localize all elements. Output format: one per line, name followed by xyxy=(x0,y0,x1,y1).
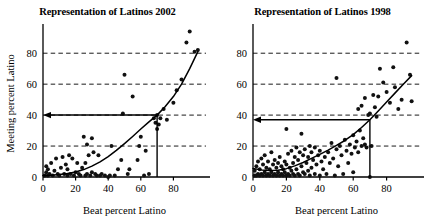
panel-latinos-2002: Representation of Latinos 2002 020406080… xyxy=(0,0,215,219)
svg-text:Beat percent Latino: Beat percent Latino xyxy=(295,205,378,216)
scatter-plot-2002: 020406080020406080 Beat percent LatinoMe… xyxy=(0,0,215,219)
scatter-plot-1998: 020406080020406080 Beat percent Latino xyxy=(215,0,430,219)
svg-text:80: 80 xyxy=(237,48,248,59)
svg-text:20: 20 xyxy=(237,141,248,152)
svg-text:Meeting percent Latino: Meeting percent Latino xyxy=(5,54,16,153)
svg-text:60: 60 xyxy=(237,79,248,90)
fit-curve-2002 xyxy=(43,52,198,176)
svg-text:40: 40 xyxy=(103,183,114,194)
data-points-2002 xyxy=(43,30,200,179)
figure-two-panel-scatter: Representation of Latinos 2002 020406080… xyxy=(0,0,430,219)
grid-lines-2002 xyxy=(43,53,206,146)
svg-text:60: 60 xyxy=(136,183,147,194)
svg-text:0: 0 xyxy=(250,183,255,194)
svg-text:0: 0 xyxy=(32,172,37,183)
axis-titles-1998: Beat percent Latino xyxy=(295,205,378,216)
data-points-1998 xyxy=(253,40,414,179)
svg-text:20: 20 xyxy=(27,141,38,152)
svg-text:Beat percent Latino: Beat percent Latino xyxy=(83,205,166,216)
svg-text:80: 80 xyxy=(168,183,179,194)
svg-text:80: 80 xyxy=(27,48,38,59)
svg-text:60: 60 xyxy=(348,183,359,194)
svg-text:40: 40 xyxy=(27,110,38,121)
svg-text:60: 60 xyxy=(27,79,38,90)
svg-text:0: 0 xyxy=(242,172,247,183)
svg-text:40: 40 xyxy=(315,183,326,194)
fit-curve-1998 xyxy=(253,76,412,171)
svg-text:0: 0 xyxy=(40,183,45,194)
svg-text:20: 20 xyxy=(70,183,81,194)
svg-text:20: 20 xyxy=(281,183,292,194)
panel-latinos-1998: Representation of Latinos 1998 020406080… xyxy=(215,0,430,219)
svg-text:40: 40 xyxy=(237,110,248,121)
svg-text:80: 80 xyxy=(381,183,392,194)
